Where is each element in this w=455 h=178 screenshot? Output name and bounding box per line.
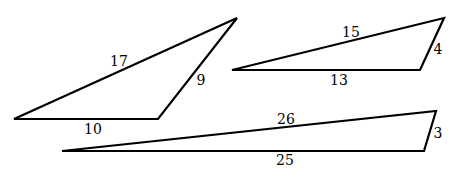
triangle-2: 15 4 13 (232, 18, 444, 88)
diagram-svg: 17 9 10 15 4 13 26 3 25 (0, 0, 455, 178)
triangle-1: 17 9 10 (14, 18, 237, 137)
triangle-2-shape (232, 18, 444, 70)
triangle-3-side-3: 3 (434, 125, 443, 141)
triangles-diagram: 17 9 10 15 4 13 26 3 25 (0, 0, 455, 178)
triangle-1-side-17: 17 (110, 53, 128, 69)
triangle-3-shape (62, 111, 436, 151)
triangle-2-side-13: 13 (330, 72, 348, 88)
triangle-3-side-25: 25 (276, 152, 294, 168)
triangle-1-side-9: 9 (197, 72, 206, 88)
triangle-1-side-10: 10 (84, 121, 102, 137)
triangle-3-side-26: 26 (277, 111, 295, 127)
triangle-2-side-15: 15 (342, 24, 360, 40)
triangle-2-side-4: 4 (434, 41, 443, 57)
